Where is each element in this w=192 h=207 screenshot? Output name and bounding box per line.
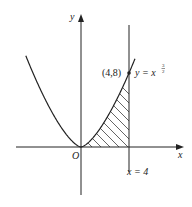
hatch-line [104, 87, 164, 147]
y-axis-label: y [69, 11, 75, 22]
point-4-8 [127, 71, 131, 75]
hatch-line [0, 87, 29, 147]
hatch-line [0, 87, 56, 147]
hatch-line [113, 87, 173, 147]
x-axis-label: x [177, 149, 183, 160]
hatch-line [140, 87, 192, 147]
hatch-line [122, 87, 182, 147]
curve-equation-label: y = x 3 2 [134, 63, 165, 78]
hatch-line [32, 87, 92, 147]
shaded-region-hatching [0, 87, 192, 147]
vertical-line-label: x = 4 [126, 166, 148, 177]
hatch-line [59, 87, 119, 147]
hatch-line [131, 87, 191, 147]
hatch-line [0, 87, 47, 147]
hatch-line [0, 87, 20, 147]
point-label: (4,8) [102, 67, 121, 79]
hatch-line [0, 87, 38, 147]
hatch-line [23, 87, 83, 147]
origin-label: O [72, 150, 79, 161]
y-axis-arrow-icon [78, 14, 84, 22]
diagram-canvas: y x O (4,8) y = x 3 2 x = 4 [0, 0, 192, 207]
hatch-line [5, 87, 65, 147]
curve-equation-base: y = x [134, 67, 156, 78]
hatch-line [50, 87, 110, 147]
curve-equation-exp-den: 2 [162, 69, 165, 74]
hatch-line [95, 87, 155, 147]
hatch-line [86, 87, 146, 147]
diagram: y x O (4,8) y = x 3 2 x = 4 [0, 0, 192, 207]
curve-equation-exp-num: 3 [162, 63, 165, 68]
